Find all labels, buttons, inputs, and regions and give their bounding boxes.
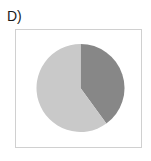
pie-slice-group bbox=[37, 44, 125, 132]
figure-panel: D) bbox=[0, 0, 151, 161]
pie-chart bbox=[15, 29, 142, 148]
panel-label: D) bbox=[7, 8, 22, 24]
